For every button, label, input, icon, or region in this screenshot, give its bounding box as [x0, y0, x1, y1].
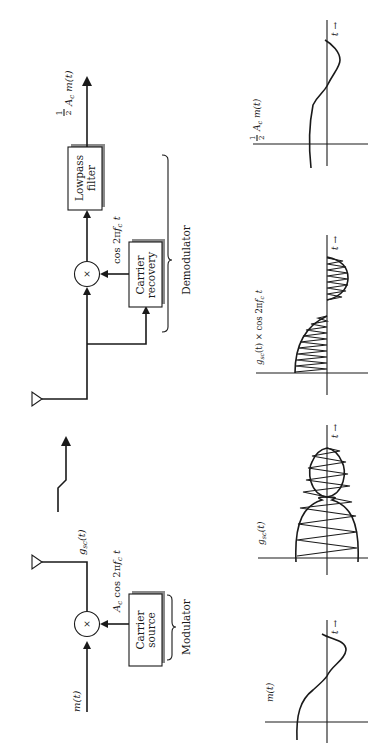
svg-text:t →: t →: [330, 22, 340, 36]
svg-text:source: source: [145, 612, 157, 648]
demodulator-multiplier: ×: [75, 262, 100, 287]
recovered-message-curve: [309, 40, 340, 168]
svg-text:m(t): m(t): [265, 682, 275, 702]
branch-line: [87, 308, 146, 344]
recovered-carrier-label: cos 2πfc t: [111, 215, 124, 264]
svg-text:1: 1: [249, 136, 257, 140]
modulator-output-line: [42, 562, 87, 611]
carrier-recovery-block: Carrier recovery: [129, 239, 165, 307]
svg-text:t →: t →: [330, 620, 340, 634]
svg-text:Lowpass: Lowpass: [73, 155, 85, 201]
modulator-multiplier: ×: [75, 612, 100, 637]
carrier-label: Ac cos 2πfc t: [111, 549, 124, 613]
modulator-label: Modulator: [180, 598, 192, 655]
svg-text:t →: t →: [330, 424, 340, 438]
lowpass-filter-block: Lowpass filter: [68, 144, 105, 210]
svg-text:Ac m(t): Ac m(t): [252, 98, 264, 132]
dsb-sc-diagram: m(t) × Carrier source Ac cos 2πfc t gsc(…: [0, 0, 368, 743]
input-label: m(t): [71, 691, 82, 712]
svg-text:gsc(t) × cos 2πfc t: gsc(t) × cos 2πfc t: [254, 289, 265, 365]
waveform-gsc: gsc(t) t →: [256, 424, 368, 575]
modulator-brace: [167, 595, 176, 660]
modulator-output-label: gsc(t): [76, 529, 89, 555]
svg-text:Ac m(t): Ac m(t): [63, 70, 76, 107]
svg-text:gsc(t): gsc(t): [256, 521, 268, 545]
received-signal-line: [42, 289, 87, 399]
receive-antenna-icon: [32, 392, 42, 406]
multiply-symbol: ×: [82, 620, 92, 628]
waveform-product: gsc(t) × cos 2πfc t t →: [254, 235, 368, 395]
waveform-output: 1 2 Ac m(t) t →: [249, 20, 368, 168]
carrier-source-block: Carrier source: [129, 591, 165, 666]
svg-text:recovery: recovery: [145, 252, 157, 299]
demodulator-output-label: 1 2 Ac m(t): [55, 70, 76, 116]
svg-text:2: 2: [258, 136, 266, 140]
demodulator: × Carrier recovery cos 2πfc t Lowpass fi…: [32, 70, 192, 406]
svg-text:2: 2: [64, 110, 73, 115]
waveform-m: m(t) t →: [265, 620, 368, 743]
demodulator-label: Demodulator: [180, 224, 192, 295]
transmit-antenna-icon: [32, 555, 42, 569]
svg-text:t →: t →: [330, 236, 340, 250]
modulator: m(t) × Carrier source Ac cos 2πfc t gsc(…: [32, 529, 192, 712]
svg-text:1: 1: [55, 110, 64, 115]
svg-text:filter: filter: [85, 164, 97, 191]
multiply-symbol: ×: [82, 270, 92, 278]
product-oscillation-upper: [327, 258, 348, 300]
lightning-arrow-icon: [58, 438, 66, 512]
message-curve: [297, 634, 346, 740]
wireless-channel: [58, 438, 66, 512]
